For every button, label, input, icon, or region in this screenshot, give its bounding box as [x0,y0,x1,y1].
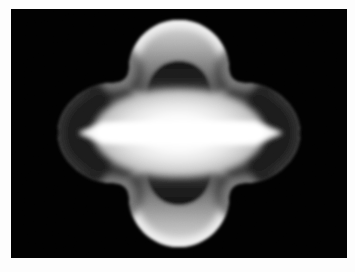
grain-overlay [11,9,347,258]
plot-canvas: Grayscale scientific visualization: a bl… [11,9,347,258]
intensity-field-svg [11,9,347,258]
figure-root: Grayscale scientific visualization: a bl… [0,0,355,272]
